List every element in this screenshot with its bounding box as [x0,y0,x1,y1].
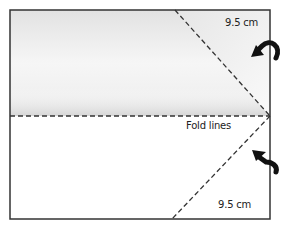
bottom-measure-label: 9.5 cm [218,199,251,210]
paper-shading-band [10,88,270,116]
fold-lines-label: Fold lines [186,120,231,131]
fold-diagram [0,0,288,225]
top-measure-label: 9.5 cm [225,17,258,28]
